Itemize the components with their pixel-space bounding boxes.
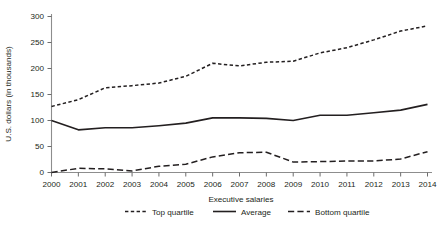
series-line-bottom-quartile [52,152,428,173]
chart-canvas: 050100150200250300 200020012002200320042… [0,0,443,226]
x-tick-label: 2002 [96,180,115,189]
line-chart: 050100150200250300 200020012002200320042… [0,0,443,226]
x-tick-label: 2000 [42,180,61,189]
x-tick-label: 2011 [338,180,356,189]
series-group [52,26,428,173]
x-tick-label: 2001 [69,180,88,189]
x-tick-label: 2009 [284,180,303,189]
x-tick-label: 2006 [204,180,223,189]
series-line-average [52,104,428,129]
y-axis-title: U.S. dollars (in thousands) [4,46,13,142]
series-line-top-quartile [52,26,428,107]
chart-legend: Top quartile Average Bottom quartile [125,208,370,217]
y-tick-label: 200 [30,64,44,73]
x-tick-marks [52,173,428,177]
x-tick-label: 2008 [257,180,276,189]
x-tick-label: 2004 [150,180,169,189]
x-tick-label: 2010 [311,180,330,189]
y-tick-label: 250 [30,38,44,47]
x-tick-label: 2014 [418,180,437,189]
axes-group [51,14,432,173]
y-tick-marks [48,17,52,173]
legend-label-bottom-quartile: Bottom quartile [315,208,370,217]
legend-item-average[interactable]: Average [213,208,271,217]
x-tick-labels: 2000200120022003200420052006200720082009… [42,180,437,189]
y-tick-label: 100 [30,116,44,125]
y-tick-label: 50 [35,142,45,151]
x-tick-label: 2012 [365,180,384,189]
y-tick-label: 0 [39,168,44,177]
x-tick-label: 2013 [392,180,411,189]
x-tick-label: 2003 [123,180,142,189]
legend-label-top-quartile: Top quartile [152,208,194,217]
y-tick-labels: 050100150200250300 [30,12,44,177]
legend-item-top-quartile[interactable]: Top quartile [125,208,194,217]
x-tick-label: 2007 [230,180,249,189]
x-tick-label: 2005 [177,180,196,189]
legend-item-bottom-quartile[interactable]: Bottom quartile [288,208,370,217]
y-tick-label: 300 [30,12,44,21]
x-axis-title: Executive salaries [208,195,273,204]
y-tick-label: 150 [30,90,44,99]
legend-label-average: Average [241,208,271,217]
